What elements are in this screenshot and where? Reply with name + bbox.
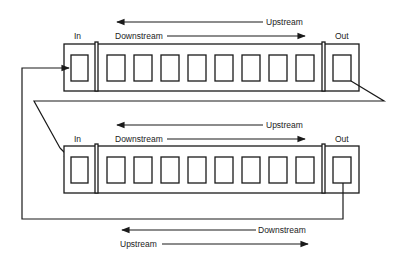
bottom-out-label: Out	[335, 134, 349, 144]
bottom-module: Upstream Downstream In Out	[64, 120, 359, 193]
bottom-slot	[134, 157, 152, 183]
bottom-slot	[107, 157, 125, 183]
top-module: Upstream Downstream In Out	[64, 17, 359, 91]
top-upstream-label: Upstream	[266, 17, 303, 27]
top-slot	[242, 55, 260, 81]
top-out-slot	[333, 55, 351, 81]
top-downstream-label: Downstream	[115, 31, 163, 41]
bottom-upstream-label: Upstream	[266, 120, 303, 130]
bottom-out-slot	[333, 157, 351, 183]
top-in-slot	[71, 55, 88, 81]
top-slot	[107, 55, 125, 81]
bottom-left-divider	[95, 144, 98, 193]
ring-topology-diagram: Upstream Downstream In Out Upstream Down…	[0, 0, 402, 263]
top-slot	[188, 55, 206, 81]
bottom-in-label: In	[74, 134, 81, 144]
top-slot	[269, 55, 287, 81]
bottom-slot	[296, 157, 314, 183]
top-slot	[296, 55, 314, 81]
bottom-in-slot	[71, 157, 88, 183]
top-right-divider	[322, 42, 325, 91]
top-in-label: In	[74, 31, 81, 41]
top-out-label: Out	[335, 31, 349, 41]
bottom-slot	[188, 157, 206, 183]
bottom-slot	[161, 157, 179, 183]
top-slot	[161, 55, 179, 81]
top-left-divider	[95, 42, 98, 91]
bottom-slot	[215, 157, 233, 183]
bottom-downstream-label: Downstream	[115, 134, 163, 144]
top-slot	[215, 55, 233, 81]
bottom-slot	[269, 157, 287, 183]
ring-downstream-label: Downstream	[258, 225, 306, 235]
top-slot	[134, 55, 152, 81]
bottom-slot	[242, 157, 260, 183]
bottom-right-divider	[322, 144, 325, 193]
ring-upstream-label: Upstream	[120, 239, 157, 249]
